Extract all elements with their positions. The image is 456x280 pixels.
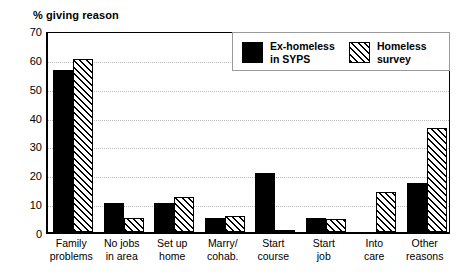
y-axis-tick-label: 30: [0, 141, 42, 153]
legend-label-ex-homeless-in-syps: Ex-homeless in SYPS: [270, 40, 335, 65]
bar: [376, 192, 396, 232]
x-axis-tick-label-line: Start: [248, 237, 299, 250]
y-axis-tick-label: 20: [0, 170, 42, 182]
bar: [124, 218, 144, 232]
chart-page: % giving reason 010203040506070 Familypr…: [0, 0, 456, 280]
x-axis-tick-label-line: reasons: [400, 250, 451, 263]
x-axis-tick-label: Otherreasons: [400, 237, 451, 262]
legend-swatch-hatch-icon: [349, 42, 370, 63]
page-title: % giving reason: [33, 9, 119, 21]
x-axis-tick-label-line: Start: [299, 237, 350, 250]
y-axis-tick-label: 60: [0, 55, 42, 67]
x-axis-tick-label-line: home: [147, 250, 198, 263]
legend-item-homeless-survey: Homeless survey: [349, 39, 427, 66]
x-axis-tick-label: Set uphome: [147, 237, 198, 262]
chart-legend: Ex-homeless in SYPS Homeless survey: [232, 32, 450, 71]
bar: [154, 203, 174, 232]
x-axis-tick-label-line: job: [299, 250, 350, 263]
y-axis-tick-label: 10: [0, 199, 42, 211]
bar: [174, 197, 194, 232]
x-axis-tick-label-line: Into: [349, 237, 400, 250]
x-axis-tick-label-line: problems: [46, 250, 97, 263]
bar: [427, 128, 447, 232]
y-axis: 010203040506070: [0, 32, 42, 234]
y-axis-tick-label: 0: [0, 228, 42, 240]
x-axis-tick-label: Intocare: [349, 237, 400, 262]
x-axis-tick-label: Startcourse: [248, 237, 299, 262]
x-axis-tick-label-line: No jobs: [97, 237, 148, 250]
bar: [326, 219, 346, 232]
x-axis-tick-label-line: Marry/: [198, 237, 249, 250]
x-axis-tick-label-line: Other: [400, 237, 451, 250]
y-axis-tick-label: 70: [0, 26, 42, 38]
bar: [275, 230, 295, 232]
x-axis-tick-label: Marry/cohab.: [198, 237, 249, 262]
legend-item-ex-homeless-in-syps: Ex-homeless in SYPS: [242, 39, 335, 66]
bar: [104, 203, 124, 232]
x-axis-tick-label: Familyproblems: [46, 237, 97, 262]
x-axis: FamilyproblemsNo jobsin areaSet uphomeMa…: [46, 237, 450, 279]
bar: [205, 218, 225, 232]
bar: [73, 59, 93, 232]
x-axis-tick-label-line: cohab.: [198, 250, 249, 263]
bar: [255, 173, 275, 232]
x-axis-tick-label-line: course: [248, 250, 299, 263]
bar: [53, 70, 73, 232]
x-axis-tick-label: No jobsin area: [97, 237, 148, 262]
y-axis-tick-label: 40: [0, 113, 42, 125]
legend-label-homeless-survey: Homeless survey: [377, 40, 427, 65]
bar: [306, 218, 326, 232]
y-axis-tick-label: 50: [0, 84, 42, 96]
legend-swatch-solid-icon: [242, 42, 263, 63]
x-axis-tick-label-line: Set up: [147, 237, 198, 250]
x-axis-tick-label: Startjob: [299, 237, 350, 262]
x-axis-tick-label-line: Family: [46, 237, 97, 250]
x-axis-tick-label-line: in area: [97, 250, 148, 263]
x-axis-tick-label-line: care: [349, 250, 400, 263]
bar: [225, 216, 245, 232]
bar: [407, 183, 427, 232]
